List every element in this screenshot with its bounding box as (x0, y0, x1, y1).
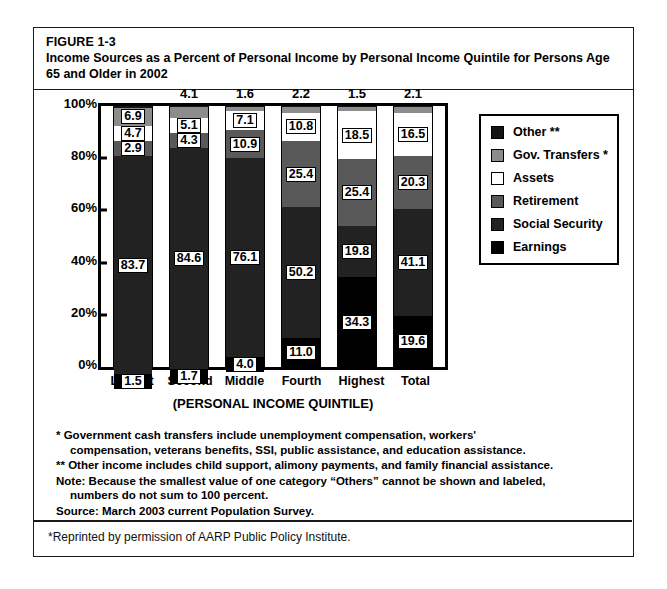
bar-segment-socialsecurity[interactable]: 84.6 (170, 148, 208, 369)
bar-segment-value-label: 7.1 (233, 113, 256, 128)
x-axis-title: (PERSONAL INCOME QUINTILE) (98, 396, 448, 411)
figure-page: FIGURE 1-3 Income Sources as a Percent o… (0, 0, 667, 589)
y-axis-tick-label: 40% (71, 252, 97, 267)
bar-segment-value-label: 10.9 (230, 137, 260, 152)
bar-segment-assets[interactable]: 5.1 (170, 118, 208, 133)
legend-swatch-icon (491, 241, 504, 254)
note-rounding: Note: Because the smallest value of one … (56, 474, 616, 503)
legend-swatch-icon (491, 149, 504, 162)
y-axis-tick-label: 60% (71, 200, 97, 215)
figure-title-band: FIGURE 1-3 Income Sources as a Percent o… (34, 28, 633, 90)
x-axis-label-fourth: Fourth (282, 374, 322, 388)
bar-segment-value-label: 25.4 (342, 185, 372, 200)
bar-segment-value-label: 5.1 (177, 118, 200, 133)
bar-segment-socialsecurity[interactable]: 50.2 (282, 207, 320, 338)
x-axis-category-labels: LowestSecondMiddleFourthHighestTotal (98, 374, 448, 388)
bar-segment-retirement[interactable]: 20.3 (394, 156, 432, 209)
bar-segment-value-label: 19.6 (398, 334, 428, 349)
bar-segment-retirement[interactable]: 4.3 (170, 133, 208, 148)
y-axis-tick-label: 0% (78, 357, 97, 372)
bar-segment-earnings[interactable]: 4.0 (226, 357, 264, 372)
legend-item[interactable]: Other ** (491, 125, 609, 139)
bar-segment-retirement[interactable]: 10.9 (226, 130, 264, 158)
bar-column-second[interactable]: 4.15.14.384.61.7 (169, 106, 209, 367)
bar-segment-socialsecurity[interactable]: 83.7 (114, 156, 152, 374)
y-axis-tick-label: 100% (64, 96, 97, 111)
bar-segment-govtransfers[interactable] (170, 107, 208, 118)
bar-segment-value-label: 10.8 (286, 119, 316, 134)
bar-column-lowest[interactable]: 6.94.72.983.71.5 (113, 106, 153, 367)
bar-segment-value-label: 25.4 (286, 167, 316, 182)
bar-segment-value-label: 19.8 (342, 244, 372, 259)
legend-label: Gov. Transfers * (513, 148, 608, 162)
reprint-permission: *Reprinted by permission of AARP Public … (48, 530, 351, 544)
bar-segment-retirement[interactable]: 2.9 (114, 141, 152, 156)
bar-segment-earnings[interactable]: 19.6 (394, 316, 432, 367)
stacked-bar[interactable]: 18.525.419.834.3 (337, 106, 377, 367)
bar-segment-value-label: 1.7 (177, 369, 200, 384)
bar-segment-value-label: 50.2 (286, 265, 316, 280)
bar-segment-socialsecurity[interactable]: 41.1 (394, 209, 432, 316)
legend-swatch-icon (491, 195, 504, 208)
bar-segment-value-label: 34.3 (342, 315, 372, 330)
bar-segment-assets[interactable]: 7.1 (226, 111, 264, 130)
bar-segment-value-label: 6.9 (121, 109, 144, 124)
stacked-bar[interactable]: 6.94.72.983.71.5 (113, 106, 153, 367)
note-other-income: ** Other income includes child support, … (56, 458, 616, 473)
bar-segment-value-label: 4.7 (121, 126, 144, 141)
bar-segment-assets[interactable]: 18.5 (338, 111, 376, 159)
bar-segment-socialsecurity[interactable]: 19.8 (338, 226, 376, 278)
stacked-bar[interactable]: 7.110.976.14.0 (225, 106, 265, 367)
bar-segment-value-label: 1.5 (121, 374, 144, 389)
stacked-bar[interactable]: 5.14.384.61.7 (169, 106, 209, 367)
stacked-bar[interactable]: 16.520.341.119.6 (393, 106, 433, 367)
legend-item[interactable]: Assets (491, 171, 609, 185)
x-axis-label-highest: Highest (339, 374, 379, 388)
legend-item[interactable]: Earnings (491, 240, 609, 254)
bar-segment-govtransfers[interactable]: 6.9 (114, 108, 152, 126)
bar-top-value-label: 1.6 (236, 86, 254, 101)
legend-label: Assets (513, 171, 554, 185)
bar-column-middle[interactable]: 1.67.110.976.14.0 (225, 106, 265, 367)
bar-top-value-label: 1.5 (348, 86, 366, 101)
bar-segment-retirement[interactable]: 25.4 (282, 141, 320, 207)
bar-column-total[interactable]: 2.116.520.341.119.6 (393, 106, 433, 367)
legend-item[interactable]: Retirement (491, 194, 609, 208)
legend-item[interactable]: Gov. Transfers * (491, 148, 609, 162)
legend-label: Social Security (513, 217, 603, 231)
note-rounding-line2: numbers do not sum to 100 percent. (56, 488, 616, 503)
bar-column-highest[interactable]: 1.518.525.419.834.3 (337, 106, 377, 367)
legend-item[interactable]: Social Security (491, 217, 609, 231)
bar-segment-value-label: 41.1 (398, 255, 428, 270)
bar-segment-assets[interactable]: 10.8 (282, 113, 320, 141)
chart-legend: Other **Gov. Transfers *AssetsRetirement… (479, 114, 619, 265)
y-axis-tick-label: 20% (71, 304, 97, 319)
bar-segment-socialsecurity[interactable]: 76.1 (226, 158, 264, 357)
stacked-bar[interactable]: 10.825.450.211.0 (281, 106, 321, 367)
legend-label: Retirement (513, 194, 578, 208)
x-axis-label-total: Total (396, 374, 436, 388)
legend-label: Other ** (513, 125, 560, 139)
bar-segment-value-label: 4.0 (233, 357, 256, 372)
bar-segment-value-label: 11.0 (286, 345, 316, 360)
bar-column-fourth[interactable]: 2.210.825.450.211.0 (281, 106, 321, 367)
bar-segment-retirement[interactable]: 25.4 (338, 159, 376, 225)
y-axis: 100%80%60%40%20%0% (42, 90, 97, 390)
bar-segment-value-label: 76.1 (230, 250, 260, 265)
notes-divider (34, 520, 632, 522)
bar-segment-assets[interactable]: 16.5 (394, 113, 432, 156)
bar-segment-assets[interactable]: 4.7 (114, 126, 152, 141)
figure-title: Income Sources as a Percent of Personal … (46, 51, 621, 82)
bar-top-value-label: 2.1 (404, 86, 422, 101)
note-gov-transfers-line2: compensation, veterans benefits, SSI, pu… (56, 443, 616, 458)
bar-segment-value-label: 20.3 (398, 175, 428, 190)
bar-top-value-label: 4.1 (180, 86, 198, 101)
x-axis-label-middle: Middle (225, 374, 265, 388)
bar-top-value-label: 2.2 (292, 86, 310, 101)
plot-area: 6.94.72.983.71.54.15.14.384.61.71.67.110… (98, 103, 448, 370)
figure-number: FIGURE 1-3 (46, 35, 621, 50)
bar-segment-earnings[interactable]: 11.0 (282, 338, 320, 367)
bar-segment-value-label: 84.6 (174, 251, 204, 266)
bar-segment-earnings[interactable]: 34.3 (338, 277, 376, 367)
legend-label: Earnings (513, 240, 567, 254)
